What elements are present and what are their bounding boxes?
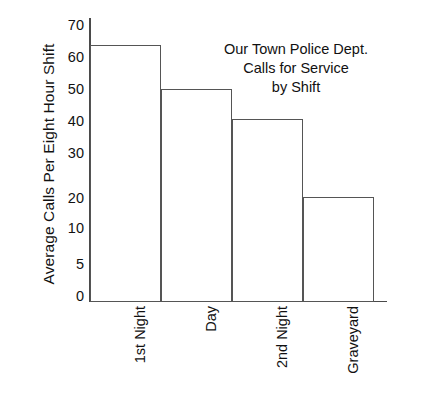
- chart-title-line: Calls for Service: [196, 59, 396, 78]
- chart-title-line: Our Town Police Dept.: [196, 40, 396, 59]
- x-category-label: Day: [203, 306, 219, 398]
- chart-title: Our Town Police Dept. Calls for Service …: [196, 40, 396, 97]
- x-category-label: Graveyard: [345, 306, 361, 398]
- y-tick-label: 5: [46, 257, 84, 272]
- bar: [303, 197, 374, 302]
- y-tick-label: 70: [46, 18, 84, 33]
- bar: [161, 89, 232, 302]
- x-category-label: 1st Night: [132, 306, 148, 398]
- y-tick-label: 30: [46, 146, 84, 161]
- y-axis-tick-labels: 70 60 50 40 30 20 10 5 0: [44, 0, 84, 404]
- bar: [232, 119, 303, 302]
- y-tick-label: 0: [46, 289, 84, 304]
- chart-title-line: by Shift: [196, 78, 396, 97]
- bar-chart: Average Calls Per Eight Hour Shift 70 60…: [0, 0, 448, 404]
- y-tick-label: 20: [46, 191, 84, 206]
- y-tick-label: 40: [46, 114, 84, 129]
- bar: [90, 45, 161, 302]
- y-tick-label: 10: [46, 221, 84, 236]
- y-tick-label: 50: [46, 82, 84, 97]
- x-category-label: 2nd Night: [274, 306, 290, 398]
- y-tick-label: 60: [46, 50, 84, 65]
